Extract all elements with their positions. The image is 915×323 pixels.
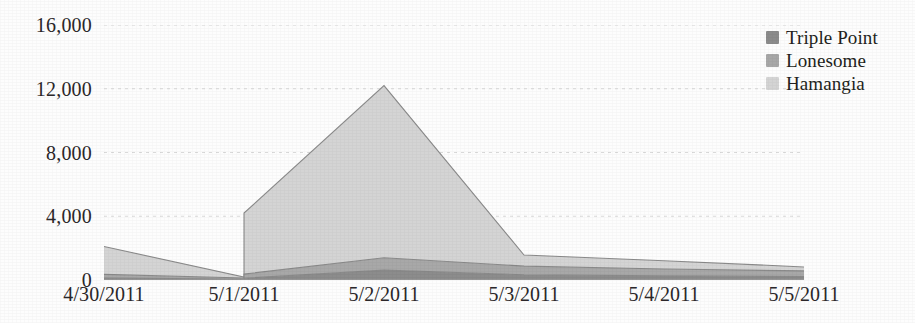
y-axis: 16,00012,0008,0004,0000 <box>0 0 92 323</box>
x-tick-label: 5/4/2011 <box>628 283 699 305</box>
legend-item-label: Triple Point <box>786 27 878 48</box>
legend-item[interactable]: Hamangia <box>766 72 912 95</box>
plot-area <box>104 25 804 280</box>
x-axis: 4/30/20115/1/20115/2/20115/3/20115/4/201… <box>104 283 804 315</box>
y-tick-label: 12,000 <box>0 79 92 99</box>
legend-item[interactable]: Lonesome <box>766 49 912 72</box>
x-tick-label: 5/3/2011 <box>488 283 559 305</box>
y-tick-label: 16,000 <box>0 15 92 35</box>
y-tick-label: 4,000 <box>0 206 92 226</box>
x-tick-label: 4/30/2011 <box>63 283 144 305</box>
series-layer <box>104 86 804 280</box>
area-series <box>104 86 804 278</box>
chart-legend: Triple PointLonesomeHamangia <box>766 26 912 95</box>
legend-swatch-icon <box>766 77 779 90</box>
x-tick-label: 5/5/2011 <box>768 283 839 305</box>
plot-canvas <box>104 25 804 280</box>
stacked-area-chart: 16,00012,0008,0004,0000 4/30/20115/1/201… <box>0 0 915 323</box>
x-tick-label: 5/1/2011 <box>208 283 279 305</box>
legend-swatch-icon <box>766 31 779 44</box>
y-tick-label: 8,000 <box>0 143 92 163</box>
x-tick-label: 5/2/2011 <box>348 283 419 305</box>
legend-swatch-icon <box>766 54 779 67</box>
legend-item-label: Lonesome <box>786 50 866 71</box>
legend-item-label: Hamangia <box>786 73 865 94</box>
legend-item[interactable]: Triple Point <box>766 26 912 49</box>
